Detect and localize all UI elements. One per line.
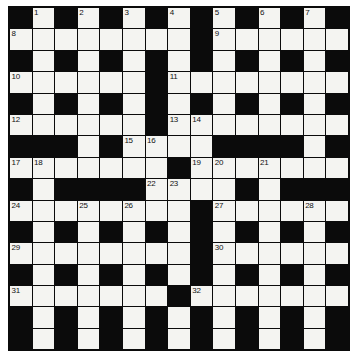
crossword-cell[interactable] — [123, 51, 145, 71]
crossword-cell[interactable] — [259, 307, 281, 327]
crossword-cell[interactable] — [33, 29, 55, 49]
crossword-cell[interactable] — [304, 307, 326, 327]
crossword-cell[interactable] — [213, 222, 235, 242]
crossword-cell[interactable] — [78, 29, 100, 49]
crossword-cell[interactable] — [213, 265, 235, 285]
crossword-cell[interactable]: 30 — [213, 243, 235, 263]
crossword-cell[interactable] — [33, 265, 55, 285]
crossword-cell[interactable] — [259, 115, 281, 135]
crossword-cell[interactable] — [123, 158, 145, 178]
crossword-cell[interactable] — [33, 329, 55, 349]
crossword-cell[interactable] — [281, 115, 303, 135]
crossword-cell[interactable] — [236, 115, 258, 135]
crossword-cell[interactable] — [213, 115, 235, 135]
crossword-cell[interactable] — [304, 29, 326, 49]
crossword-cell[interactable] — [78, 307, 100, 327]
crossword-cell[interactable]: 10 — [10, 72, 32, 92]
crossword-cell[interactable] — [168, 201, 190, 221]
crossword-cell[interactable] — [326, 201, 348, 221]
crossword-cell[interactable] — [281, 201, 303, 221]
crossword-cell[interactable] — [304, 286, 326, 306]
crossword-cell[interactable] — [191, 136, 213, 156]
crossword-cell[interactable] — [281, 286, 303, 306]
crossword-cell[interactable]: 6 — [259, 8, 281, 28]
crossword-cell[interactable] — [326, 29, 348, 49]
crossword-cell[interactable] — [55, 286, 77, 306]
crossword-cell[interactable]: 27 — [213, 201, 235, 221]
crossword-cell[interactable] — [326, 158, 348, 178]
crossword-cell[interactable]: 17 — [10, 158, 32, 178]
crossword-cell[interactable] — [168, 94, 190, 114]
crossword-cell[interactable] — [123, 29, 145, 49]
crossword-cell[interactable] — [55, 72, 77, 92]
crossword-cell[interactable] — [78, 329, 100, 349]
crossword-cell[interactable] — [123, 94, 145, 114]
crossword-cell[interactable] — [168, 29, 190, 49]
crossword-cell[interactable] — [33, 286, 55, 306]
crossword-cell[interactable] — [259, 286, 281, 306]
crossword-cell[interactable] — [78, 265, 100, 285]
crossword-cell[interactable] — [146, 29, 168, 49]
crossword-cell[interactable] — [33, 243, 55, 263]
crossword-cell[interactable] — [304, 51, 326, 71]
crossword-cell[interactable] — [259, 265, 281, 285]
crossword-cell[interactable] — [100, 243, 122, 263]
crossword-cell[interactable] — [168, 51, 190, 71]
crossword-cell[interactable] — [168, 222, 190, 242]
crossword-cell[interactable] — [259, 94, 281, 114]
crossword-cell[interactable] — [259, 29, 281, 49]
crossword-cell[interactable] — [168, 243, 190, 263]
crossword-grid[interactable]: 1234567891011121314151617181920212223242… — [8, 6, 350, 351]
crossword-cell[interactable] — [236, 201, 258, 221]
crossword-cell[interactable] — [100, 72, 122, 92]
crossword-cell[interactable] — [191, 179, 213, 199]
crossword-cell[interactable] — [168, 265, 190, 285]
crossword-cell[interactable]: 9 — [213, 29, 235, 49]
crossword-cell[interactable] — [123, 222, 145, 242]
crossword-cell[interactable] — [100, 29, 122, 49]
crossword-cell[interactable] — [100, 286, 122, 306]
crossword-cell[interactable] — [78, 51, 100, 71]
crossword-cell[interactable] — [281, 158, 303, 178]
crossword-cell[interactable] — [123, 72, 145, 92]
crossword-cell[interactable] — [55, 115, 77, 135]
crossword-cell[interactable] — [33, 94, 55, 114]
crossword-cell[interactable] — [281, 29, 303, 49]
crossword-cell[interactable] — [259, 72, 281, 92]
crossword-cell[interactable] — [326, 115, 348, 135]
crossword-cell[interactable] — [326, 286, 348, 306]
crossword-cell[interactable] — [33, 51, 55, 71]
crossword-cell[interactable]: 31 — [10, 286, 32, 306]
crossword-cell[interactable] — [146, 158, 168, 178]
crossword-cell[interactable] — [78, 136, 100, 156]
crossword-cell[interactable] — [259, 51, 281, 71]
crossword-cell[interactable] — [78, 243, 100, 263]
crossword-cell[interactable] — [304, 265, 326, 285]
crossword-cell[interactable] — [259, 329, 281, 349]
crossword-cell[interactable] — [304, 72, 326, 92]
crossword-cell[interactable] — [55, 158, 77, 178]
crossword-cell[interactable]: 23 — [168, 179, 190, 199]
crossword-cell[interactable] — [213, 51, 235, 71]
crossword-cell[interactable] — [100, 115, 122, 135]
crossword-cell[interactable] — [123, 115, 145, 135]
crossword-cell[interactable]: 14 — [191, 115, 213, 135]
crossword-cell[interactable] — [236, 29, 258, 49]
crossword-cell[interactable]: 1 — [33, 8, 55, 28]
crossword-cell[interactable]: 32 — [191, 286, 213, 306]
crossword-cell[interactable]: 8 — [10, 29, 32, 49]
crossword-cell[interactable]: 7 — [304, 8, 326, 28]
crossword-cell[interactable] — [281, 72, 303, 92]
crossword-cell[interactable] — [55, 201, 77, 221]
crossword-cell[interactable] — [236, 243, 258, 263]
crossword-cell[interactable] — [123, 243, 145, 263]
crossword-cell[interactable] — [326, 72, 348, 92]
crossword-cell[interactable] — [33, 72, 55, 92]
crossword-cell[interactable] — [304, 115, 326, 135]
crossword-cell[interactable] — [213, 286, 235, 306]
crossword-cell[interactable] — [326, 243, 348, 263]
crossword-cell[interactable]: 12 — [10, 115, 32, 135]
crossword-cell[interactable] — [100, 158, 122, 178]
crossword-cell[interactable]: 25 — [78, 201, 100, 221]
crossword-cell[interactable] — [259, 201, 281, 221]
